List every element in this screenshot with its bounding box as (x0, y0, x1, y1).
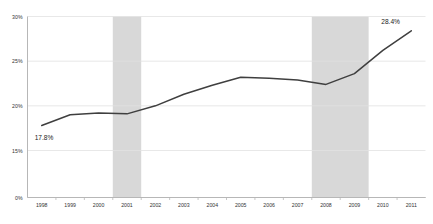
y-axis-tick-label: 0% (0, 195, 23, 201)
x-axis-tick-label: 2000 (84, 202, 112, 208)
x-axis-tick-label: 2006 (255, 202, 283, 208)
x-axis-tick-label: 2002 (141, 202, 169, 208)
x-axis-tick-label: 2004 (198, 202, 226, 208)
y-axis-tick-label: 20% (0, 103, 23, 109)
x-axis-tick-label: 2003 (170, 202, 198, 208)
y-axis-tick-label: 25% (0, 58, 23, 64)
line-chart: 0%15%20%25%30% 1998199920002001200220032… (0, 0, 433, 224)
chart-canvas (0, 0, 433, 224)
x-axis-tick-label: 2010 (369, 202, 397, 208)
recession-band (312, 17, 369, 198)
x-axis-tick-label: 2005 (227, 202, 255, 208)
data-point-label: 17.8% (35, 134, 54, 141)
x-axis-tick-label: 2011 (397, 202, 425, 208)
data-point-label: 28.4% (381, 18, 400, 25)
x-axis-tick-label: 2008 (312, 202, 340, 208)
y-axis-tick-label: 15% (0, 148, 23, 154)
recession-band (113, 17, 141, 198)
x-axis-tick-label: 2009 (340, 202, 368, 208)
x-axis-tick-label: 1998 (28, 202, 56, 208)
x-axis-tick-label: 1999 (56, 202, 84, 208)
y-axis-tick-label: 30% (0, 14, 23, 20)
x-axis-tick-label: 2007 (283, 202, 311, 208)
x-axis-tick-label: 2001 (113, 202, 141, 208)
